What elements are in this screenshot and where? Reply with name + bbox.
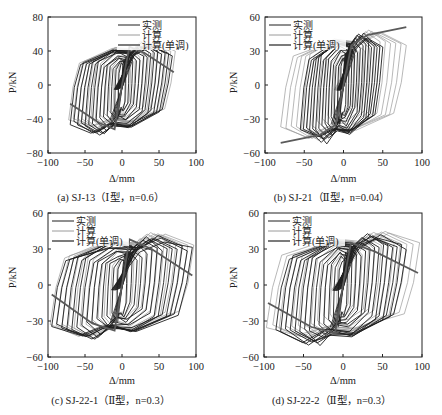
x-tick-label: 50 <box>154 157 165 168</box>
y-tick-label: −60 <box>244 148 260 159</box>
legend: 实测计算计算(单调) <box>267 215 345 248</box>
y-tick-label: −30 <box>244 114 260 125</box>
x-axis-label: Δ/mm <box>48 375 196 386</box>
y-tick-label: −30 <box>27 316 43 327</box>
hysteresis-plot-c: −100−50050100−60−3003060实测计算计算(单调) <box>0 207 221 377</box>
chart-caption: (b) SJ-21（Ⅱ型，n=0.04） <box>221 189 442 204</box>
x-tick-label: 100 <box>414 157 430 168</box>
chart-caption: (a) SJ-13（Ⅰ型，n=0.6） <box>0 189 221 204</box>
chart-panel-a: P/kN −100−50050100−80−4004080实测计算计算(单调) … <box>0 0 221 207</box>
hysteresis-plot-a: −100−50050100−80−4004080实测计算计算(单调) <box>0 0 221 175</box>
x-tick-label: −100 <box>37 361 59 372</box>
y-tick-label: 80 <box>33 12 44 23</box>
x-axis-label: Δ/mm <box>264 375 422 386</box>
x-tick-label: 100 <box>188 361 204 372</box>
y-tick-label: 30 <box>250 46 261 57</box>
x-tick-label: 50 <box>377 361 388 372</box>
x-tick-label: 100 <box>414 361 430 372</box>
y-tick-label: −30 <box>243 316 259 327</box>
y-tick-label: −60 <box>27 352 43 363</box>
legend-label: 计算(单调) <box>76 235 123 248</box>
hysteresis-plot-d: −100−50050100−60−3003060实测计算计算(单调) <box>221 207 442 377</box>
hysteresis-curves <box>50 233 194 340</box>
hysteresis-plot-b: −100−50050100−60−3003060实测计算计算(单调) <box>221 0 442 175</box>
x-tick-label: 0 <box>341 157 346 168</box>
chart-caption: (c) SJ-22-1（Ⅱ型，n=0.3） <box>0 392 221 407</box>
legend-label: 计算(单调) <box>292 235 339 248</box>
legend: 实测计算计算(单调) <box>268 19 346 52</box>
y-tick-label: −60 <box>243 352 259 363</box>
legend-label: 计算(单调) <box>293 39 340 52</box>
x-tick-label: −100 <box>37 157 59 168</box>
legend: 实测计算计算(单调) <box>51 215 129 248</box>
x-tick-label: 50 <box>154 361 165 372</box>
legend-label: 计算(单调) <box>142 39 189 52</box>
x-axis-label: Δ/mm <box>265 173 422 184</box>
y-tick-label: 0 <box>38 80 43 91</box>
x-tick-label: 0 <box>119 361 124 372</box>
x-tick-label: −50 <box>77 361 93 372</box>
y-tick-label: 60 <box>33 208 44 219</box>
x-tick-label: 0 <box>119 157 124 168</box>
chart-panel-b: P/kN −100−50050100−60−3003060实测计算计算(单调) … <box>221 0 442 207</box>
legend: 实测计算计算(单调) <box>117 19 195 52</box>
y-tick-label: 0 <box>254 280 259 291</box>
chart-panel-c: P/kN −100−50050100−60−3003060实测计算计算(单调) … <box>0 207 221 415</box>
chart-caption: (d) SJ-22-2（Ⅱ型，n=0.3） <box>221 392 442 407</box>
x-tick-label: 0 <box>340 361 345 372</box>
x-tick-label: −100 <box>253 361 275 372</box>
x-tick-label: 100 <box>188 157 204 168</box>
hysteresis-curves <box>69 41 176 135</box>
y-tick-label: 0 <box>255 80 260 91</box>
x-tick-label: −100 <box>254 157 276 168</box>
x-tick-label: 50 <box>378 157 389 168</box>
y-tick-label: 60 <box>249 208 260 219</box>
y-tick-label: 30 <box>249 244 260 255</box>
y-tick-label: −80 <box>27 148 43 159</box>
y-tick-label: −40 <box>27 114 43 125</box>
y-tick-label: 0 <box>38 280 43 291</box>
chart-panel-d: P/kN −100−50050100−60−3003060实测计算计算(单调) … <box>221 207 442 415</box>
y-tick-label: 30 <box>33 244 44 255</box>
hysteresis-curves <box>266 231 419 345</box>
x-tick-label: −50 <box>296 157 312 168</box>
x-tick-label: −50 <box>295 361 311 372</box>
y-tick-label: 60 <box>250 12 261 23</box>
x-tick-label: −50 <box>77 157 93 168</box>
x-axis-label: Δ/mm <box>48 173 196 184</box>
y-tick-label: 40 <box>33 46 44 57</box>
